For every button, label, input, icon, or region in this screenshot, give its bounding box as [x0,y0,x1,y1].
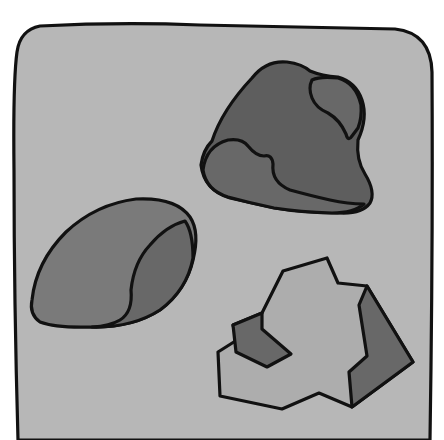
illustration-canvas: Three rocks illustration [0,0,444,440]
rocks-illustration [0,0,444,440]
